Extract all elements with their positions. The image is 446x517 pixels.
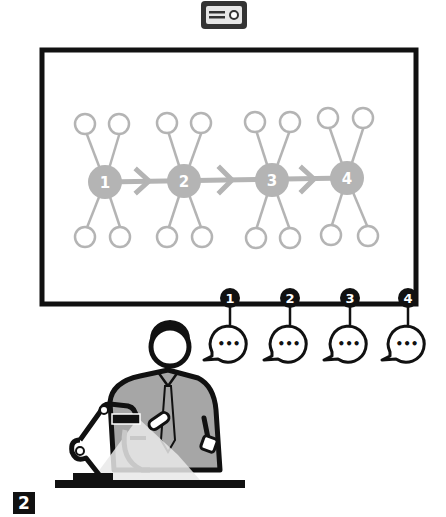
- panel-label: 2: [13, 492, 35, 514]
- projector-icon: [201, 1, 247, 29]
- svg-text:1: 1: [225, 291, 234, 306]
- svg-text:1: 1: [100, 174, 110, 192]
- svg-text:4: 4: [403, 291, 412, 306]
- presentation-illustration: 1 2 3 4 1 ••• 2 ••• 3 ••• 4 •••: [0, 0, 446, 517]
- ellipsis-icon: •••: [337, 337, 360, 351]
- ellipsis-icon: •••: [217, 337, 240, 351]
- hub-node-1: 1: [88, 165, 122, 199]
- svg-text:3: 3: [345, 291, 354, 306]
- svg-text:2: 2: [285, 291, 294, 306]
- hub-node-2: 2: [167, 164, 201, 198]
- ellipsis-icon: •••: [395, 337, 418, 351]
- hub-node-4: 4: [330, 161, 364, 195]
- svg-text:3: 3: [267, 172, 277, 190]
- svg-text:2: 2: [179, 173, 189, 191]
- hub-node-3: 3: [255, 163, 289, 197]
- svg-text:4: 4: [342, 170, 352, 188]
- ellipsis-icon: •••: [277, 337, 300, 351]
